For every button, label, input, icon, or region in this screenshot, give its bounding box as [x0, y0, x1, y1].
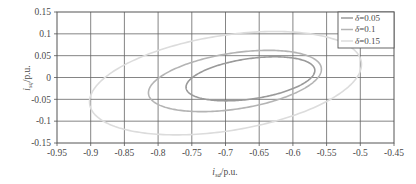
- legend-value: =0.1: [359, 24, 375, 34]
- y-tick-label: -0.05: [31, 95, 51, 105]
- x-tick-label: -0.85: [115, 148, 135, 158]
- y-axis-title: isq/p.u.: [22, 65, 33, 90]
- legend-entry-label: δ=0.1: [355, 24, 376, 34]
- legend-value: =0.15: [359, 36, 380, 46]
- y-tick-label: 0.1: [39, 29, 51, 39]
- legend-entry-label: δ=0.15: [355, 36, 381, 46]
- series-curve: [186, 57, 315, 101]
- x-tick-label: -0.75: [182, 148, 202, 158]
- x-tick-label: -0.6: [285, 148, 300, 158]
- axis-unit: /p.u.: [221, 167, 238, 177]
- x-tick-label: -0.8: [151, 148, 166, 158]
- x-tick-label: -0.95: [47, 148, 67, 158]
- y-tick-label: 0: [46, 73, 51, 83]
- x-tick-label: -0.45: [384, 148, 404, 158]
- x-tick-label: -0.9: [83, 148, 98, 158]
- x-tick-label: -0.7: [218, 148, 233, 158]
- y-tick-label: -0.15: [31, 138, 51, 148]
- y-tick-label: 0.05: [34, 51, 51, 61]
- x-tick-label: -0.65: [249, 148, 269, 158]
- chart-legend: δ=0.05δ=0.1δ=0.15: [338, 12, 394, 48]
- y-tick-label: 0.15: [34, 7, 51, 17]
- x-axis-title: isd/p.u.: [212, 167, 237, 178]
- legend-entry-label: δ=0.05: [355, 13, 381, 23]
- y-tick-labels: 0.150.10.050-0.05-0.1-0.15: [31, 7, 57, 148]
- y-tick-label: -0.1: [36, 116, 51, 126]
- x-tick-labels: -0.95-0.9-0.85-0.8-0.75-0.7-0.65-0.6-0.5…: [47, 143, 404, 158]
- x-tick-label: -0.5: [353, 148, 368, 158]
- legend-value: =0.05: [359, 13, 380, 23]
- chart-plot-area: -0.95-0.9-0.85-0.8-0.75-0.7-0.65-0.6-0.5…: [0, 0, 416, 184]
- x-tick-label: -0.55: [317, 148, 337, 158]
- chart-figure: -0.95-0.9-0.85-0.8-0.75-0.7-0.65-0.6-0.5…: [0, 0, 416, 184]
- series-curve: [148, 50, 321, 111]
- axis-unit: /p.u.: [22, 65, 32, 82]
